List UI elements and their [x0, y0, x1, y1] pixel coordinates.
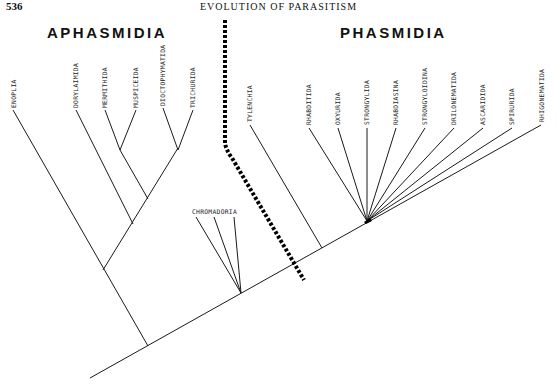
label-rhigonematida: RHIGONEMATIDA [538, 69, 545, 122]
label-spirurida: SPIRURIDA [508, 88, 515, 125]
phylogenetic-tree: ENOPLIA DORYLAIMIDA MERMITHIDA MUSPICEID… [0, 0, 557, 389]
label-trichurida: TRICHURIDA [189, 67, 196, 108]
label-chromadoria: CHROMADORIA [192, 208, 237, 215]
branch-ascaridida [367, 128, 483, 221]
branch-enoplia [13, 110, 148, 346]
branch-chromadoria-3 [234, 217, 241, 293]
label-rhabdiasina: RHABDIASINA [392, 80, 399, 125]
branch-rhabditida [309, 128, 367, 221]
label-oxyurida: OXYURIDA [334, 92, 341, 125]
branch-mermithida [105, 110, 120, 150]
branch-trichurida [178, 110, 193, 150]
branch-muspiceida [120, 110, 136, 150]
label-strongyloidina: STRONGYLOIDINA [421, 68, 428, 125]
branch-tylenchia [250, 125, 322, 248]
label-tylenchia: TYLENCHIA [246, 85, 253, 122]
branch-dorylaimida [76, 110, 133, 224]
label-mermithida: MERMITHIDA [101, 67, 108, 108]
label-muspiceida: MUSPICEIDA [132, 67, 139, 108]
branch-strongyloidina [367, 128, 425, 221]
label-dorylaimida: DORYLAIMIDA [72, 63, 79, 108]
label-dioctophymatida: DIOCTOPHYMATIDA [159, 45, 166, 106]
branch-mermithida-muspiceida-stem [120, 150, 148, 199]
trunk [90, 125, 541, 378]
branch-drilonematida [367, 128, 454, 221]
branch-spirurida [367, 128, 512, 221]
label-drilonematida: DRILONEMATIDA [450, 72, 457, 125]
label-ascaridida: ASCARIDIDA [479, 84, 486, 125]
branch-oxyurida [338, 128, 367, 221]
branch-dioctophymatida [163, 108, 178, 150]
label-enoplia: ENOPLIA [10, 79, 17, 108]
branch-rhabdiasina [367, 128, 396, 221]
branch-aphasmid-stem [103, 148, 178, 270]
label-strongylida: STRONGYLIDA [363, 80, 370, 125]
label-rhabditida: RHABDITIDA [305, 84, 312, 125]
